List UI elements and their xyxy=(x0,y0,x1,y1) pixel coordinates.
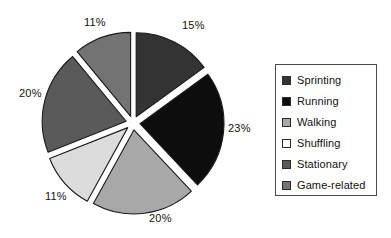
slice-label-walking: 20% xyxy=(149,212,172,224)
legend-item-walking[interactable]: Walking xyxy=(282,112,376,132)
legend-item-label: Game-related xyxy=(297,179,365,191)
legend-item-label: Sprinting xyxy=(297,74,341,86)
legend-item-stationary[interactable]: Stationary xyxy=(282,154,376,174)
legend-swatch-icon xyxy=(282,97,291,106)
legend-swatch-icon xyxy=(282,139,291,148)
legend-item-label: Running xyxy=(297,95,339,107)
legend-item-running[interactable]: Running xyxy=(282,91,376,111)
slice-label-running: 23% xyxy=(228,122,251,134)
pie-chart-screenshot: 15% 23% 20% 11% 20% 11% SprintingRunning… xyxy=(0,0,391,238)
slice-label-sprinting: 15% xyxy=(182,19,205,31)
legend-swatch-icon xyxy=(282,160,291,169)
slice-label-stationary: 20% xyxy=(19,87,42,99)
pie-chart-figure: 15% 23% 20% 11% 20% 11% xyxy=(0,0,270,238)
legend-swatch-icon xyxy=(282,118,291,127)
legend-item-game-related[interactable]: Game-related xyxy=(282,175,376,195)
slice-label-shuffling: 11% xyxy=(45,190,67,202)
legend-item-shuffling[interactable]: Shuffling xyxy=(282,133,376,153)
legend-item-sprinting[interactable]: Sprinting xyxy=(282,70,376,90)
legend-swatch-icon xyxy=(282,76,291,85)
legend-item-label: Walking xyxy=(297,116,336,128)
legend-swatch-icon xyxy=(282,181,291,190)
slice-label-game-related: 11% xyxy=(84,16,106,28)
chart-legend: SprintingRunningWalkingShufflingStationa… xyxy=(275,64,377,196)
pie-chart-svg xyxy=(0,0,270,238)
legend-item-label: Stationary xyxy=(297,158,348,170)
legend-item-label: Shuffling xyxy=(297,137,341,149)
pie-slice-group xyxy=(42,32,224,214)
